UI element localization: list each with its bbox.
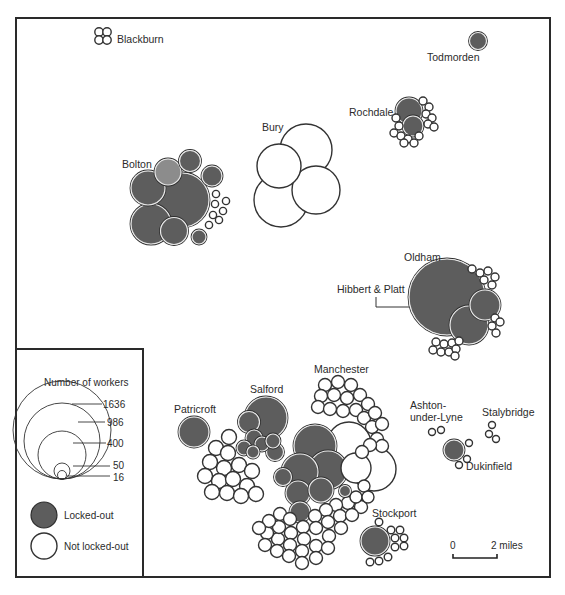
not-locked-out-circle-stockport [375, 557, 383, 565]
not-locked-out-circle-manchester [362, 491, 374, 503]
not-locked-out-circle-manchester [335, 522, 348, 535]
legend-locked-swatch [31, 502, 57, 528]
not-locked-out-circle-manchester [358, 480, 370, 492]
not-locked-out-circle-stockport [366, 558, 374, 566]
not-locked-out-circle-oldham [468, 265, 476, 273]
legend-size-986: 986 [107, 417, 124, 428]
locked-out-circle-salford [266, 434, 280, 448]
not-locked-out-circle-salford [203, 455, 218, 470]
locked-out-circle-manchester [340, 486, 351, 497]
not-locked-out-circle-oldham [437, 348, 445, 356]
not-locked-out-circle-stockport [391, 543, 399, 551]
not-locked-out-circle-dukinfield [456, 462, 463, 469]
not-locked-out-circle-bolton [215, 216, 222, 223]
label-blackburn: Blackburn [117, 33, 164, 45]
not-locked-out-circle-rochdale [430, 123, 438, 131]
lockout-map: Blackburn Todmorden Rochdale Bury Bolton… [0, 0, 565, 595]
not-locked-out-circle-manchester [334, 510, 347, 523]
label-ashton-line2: under-Lyne [410, 411, 463, 423]
not-locked-out-circle-salford [205, 485, 220, 500]
legend: Number of workers 1636 986 400 50 16 Loc… [13, 349, 144, 576]
legend-size-1636: 1636 [103, 399, 126, 410]
not-locked-out-circle-manchester [328, 389, 341, 402]
worker-circles [95, 28, 504, 570]
not-locked-out-circle-manchester [356, 446, 369, 459]
scale-bar-line [453, 554, 497, 558]
not-locked-out-circle-salford [198, 469, 213, 484]
label-bolton: Bolton [122, 158, 152, 170]
label-ashton-line1: Ashton- [410, 399, 447, 411]
scale-bar: 0 2 miles [450, 540, 523, 558]
not-locked-out-circle-manchester [350, 491, 362, 503]
legend-size-50: 50 [113, 460, 125, 471]
not-locked-out-circle-salford [226, 472, 241, 487]
not-locked-out-circle-salford [220, 486, 235, 501]
not-locked-out-circle-manchester [376, 440, 389, 453]
not-locked-out-circle-manchester [312, 401, 325, 414]
not-locked-out-circle-dukinfield [466, 440, 473, 447]
label-rochdale: Rochdale [349, 106, 394, 118]
not-locked-out-circle-blackburn [103, 36, 111, 44]
scale-end-label: 2 miles [491, 540, 523, 551]
label-stockport: Stockport [372, 507, 416, 519]
not-locked-out-circle-oldham [480, 276, 488, 284]
locked-out-circle-manchester [309, 478, 333, 502]
not-locked-out-circle-manchester [285, 527, 298, 540]
locked-out-circle-patricroft [179, 417, 209, 447]
locked-out-circle-bolton [161, 218, 188, 245]
locked-out-circle-bolton [155, 159, 181, 185]
locked-out-circle-bolton [192, 230, 206, 244]
locked-out-circle-todmorden [470, 33, 487, 50]
not-locked-out-circle-rochdale [395, 122, 403, 130]
not-locked-out-circle-manchester [341, 392, 354, 405]
not-locked-out-circle-manchester [310, 522, 323, 535]
not-locked-out-circle-rochdale [400, 139, 408, 147]
locked-out-circle-stockport [361, 527, 389, 555]
not-locked-out-circle-manchester [323, 530, 336, 543]
locked-out-circle-bolton [202, 166, 222, 186]
not-locked-out-circle-manchester [376, 418, 389, 431]
not-locked-out-circle-bolton [219, 207, 226, 214]
legend-size-16: 16 [113, 472, 125, 483]
legend-not-locked-swatch [31, 533, 57, 559]
locked-out-circle-manchester [275, 469, 292, 486]
not-locked-out-circle-bolton [211, 200, 218, 207]
not-locked-out-circle-manchester [259, 539, 272, 552]
not-locked-out-circle-manchester [322, 542, 335, 555]
label-salford: Salford [250, 383, 283, 395]
not-locked-out-circle-oldham [440, 340, 448, 348]
not-locked-out-circle-manchester [324, 403, 337, 416]
not-locked-out-circle-manchester [337, 405, 350, 418]
not-locked-out-circle-manchester [310, 552, 323, 565]
not-locked-out-circle-oldham [451, 352, 459, 360]
not-locked-out-circle-stockport [384, 553, 392, 561]
not-locked-out-circle-salford [221, 446, 236, 461]
not-locked-out-circle-stockport [396, 526, 404, 534]
locked-out-circle-bolton [180, 151, 201, 172]
label-oldham: Oldham [404, 251, 441, 263]
not-locked-out-circle-salford [222, 430, 237, 445]
not-locked-out-circle-rochdale [410, 139, 418, 147]
not-locked-out-circle-oldham [492, 329, 500, 337]
not-locked-out-circle-stockport [400, 534, 408, 542]
not-locked-out-circle-bolton [212, 190, 219, 197]
not-locked-out-circle-stalybridge [493, 436, 500, 443]
not-locked-out-circle-blackburn [95, 36, 103, 44]
not-locked-out-circle-manchester [346, 509, 359, 522]
not-locked-out-circle-manchester [297, 521, 310, 534]
not-locked-out-circle-manchester [253, 522, 266, 535]
label-dukinfield: Dukinfield [466, 460, 512, 472]
not-locked-out-circle-stockport [387, 526, 395, 534]
label-patricroft: Patricroft [174, 403, 216, 415]
not-locked-out-circle-oldham [488, 281, 496, 289]
not-locked-out-circle-ashton-under-lyne [438, 427, 445, 434]
not-locked-out-circle-stalybridge [489, 422, 496, 429]
not-locked-out-circle-rochdale [415, 132, 423, 140]
not-locked-out-circle-stalybridge [486, 431, 493, 438]
locked-out-circle-salford [247, 446, 259, 458]
not-locked-out-circle-oldham [491, 273, 499, 281]
locked-out-circle-dukinfield [444, 440, 464, 460]
not-locked-out-circle-manchester [310, 540, 323, 553]
legend-size-title: Number of workers [44, 377, 128, 388]
not-locked-out-circle-manchester [296, 557, 309, 570]
